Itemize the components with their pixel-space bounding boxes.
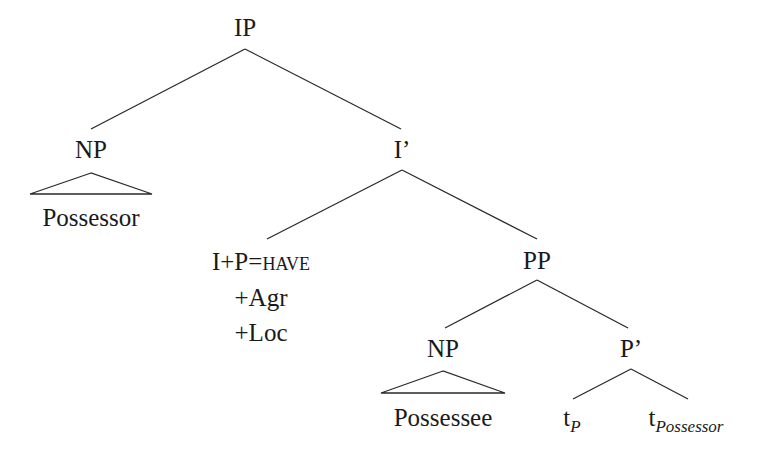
branch-ip-np: [91, 49, 245, 129]
feature-agr: +Agr: [235, 285, 288, 310]
trace-p-base: t: [563, 404, 570, 431]
node-head: I+P=have: [212, 249, 310, 274]
triangle-possessor: [30, 173, 152, 194]
node-possessee: Possessee: [394, 405, 493, 430]
node-pbar: P’: [620, 336, 642, 361]
node-pp: PP: [523, 248, 551, 273]
node-possessor: Possessor: [42, 205, 139, 230]
branch-pp-np: [445, 280, 537, 328]
feature-loc: +Loc: [235, 320, 288, 345]
branch-pp-pbar: [537, 280, 628, 328]
trace-possessor: tPossessor: [649, 405, 724, 430]
trace-p-subscript: P: [570, 417, 580, 436]
trace-p: tP: [563, 405, 580, 430]
branch-ibar-head: [267, 170, 402, 239]
branch-ibar-pp: [402, 170, 537, 239]
node-ip: IP: [234, 15, 256, 40]
node-np-object: NP: [427, 336, 459, 361]
node-ibar: I’: [394, 137, 411, 162]
branch-ip-ibar: [245, 49, 401, 129]
node-np-subject: NP: [75, 137, 107, 162]
trace-possessor-subscript: Possessor: [655, 417, 723, 436]
triangle-possessee: [381, 371, 505, 393]
head-label-have: have: [262, 248, 310, 275]
branch-pbar-tp: [573, 369, 631, 399]
trace-possessor-base: t: [649, 404, 656, 431]
head-label-prefix: I+P=: [212, 248, 262, 275]
branch-pbar-tposs: [631, 369, 688, 399]
